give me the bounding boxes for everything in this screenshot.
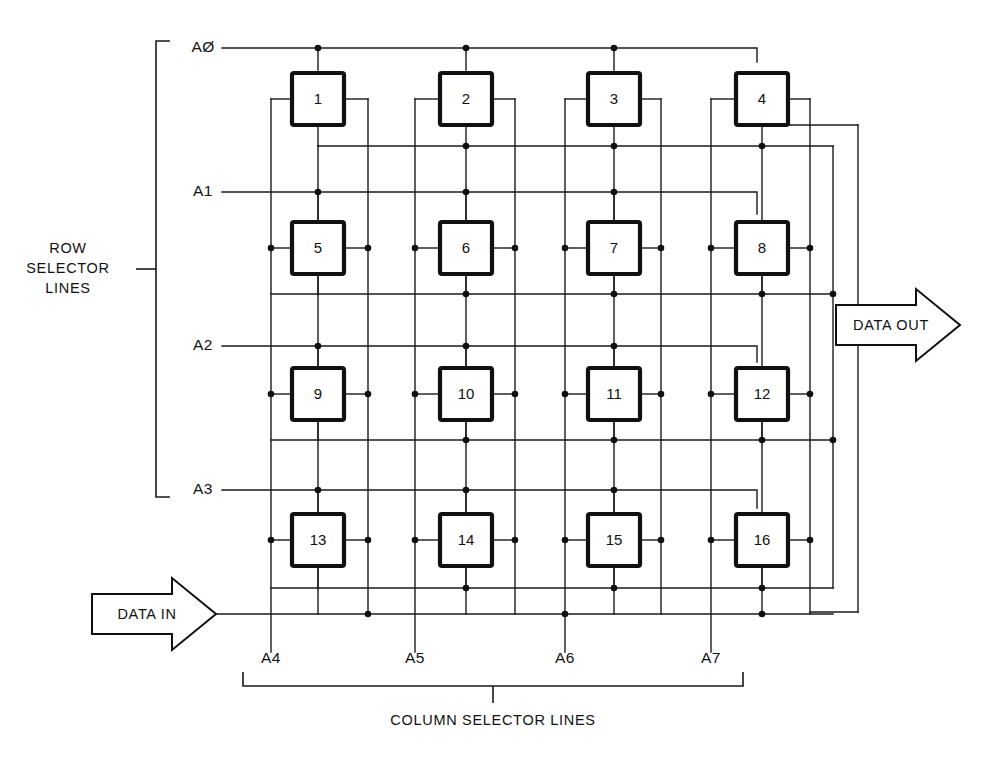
- column-address-labels: A4 A5 A6 A7: [261, 649, 721, 666]
- memory-cell-9-label: 9: [314, 385, 322, 402]
- row-selector-caption-line2: SELECTOR: [26, 260, 110, 276]
- data-in-port[interactable]: DATA IN: [92, 578, 216, 650]
- junction-c14-right: [512, 537, 519, 544]
- junction-c5-left: [268, 245, 275, 252]
- junction-a0-c3: [611, 45, 618, 52]
- junction-c9-right: [365, 391, 372, 398]
- junction-c7-left: [562, 245, 569, 252]
- junction-out0-c3: [611, 143, 618, 150]
- column-address-label-a6: A6: [555, 649, 575, 666]
- column-address-label-a4: A4: [261, 649, 281, 666]
- junction-din-c4: [759, 611, 766, 618]
- column-selector-caption: COLUMN SELECTOR LINES: [390, 712, 595, 728]
- memory-cell-10-label: 10: [458, 385, 475, 402]
- column-address-label-a7: A7: [701, 649, 721, 666]
- memory-cell-1-label: 1: [314, 90, 322, 107]
- memory-cell-13-label: 13: [310, 531, 327, 548]
- junction-a2-c1: [315, 343, 322, 350]
- row-address-label-a0: AØ: [191, 38, 214, 55]
- memory-cell-16-label: 16: [754, 531, 771, 548]
- data-out-port[interactable]: DATA OUT: [836, 289, 960, 361]
- data-in-label: DATA IN: [117, 606, 176, 622]
- row-selector-caption: ROW SELECTOR LINES: [26, 240, 110, 296]
- junction-a3-c3: [611, 487, 618, 494]
- junction-c16-right: [807, 537, 814, 544]
- memory-cell-8-label: 8: [758, 239, 766, 256]
- row-address-label-a1: A1: [193, 182, 213, 199]
- matrix-row-1: 5 6 7 8: [271, 222, 810, 294]
- row-wire-a0: [222, 48, 757, 62]
- junction-out1-c2: [463, 291, 470, 298]
- matrix-row-3: 13 14 15 16: [271, 514, 810, 588]
- memory-cell-4-label: 4: [758, 90, 766, 107]
- junction-a3-c1: [315, 487, 322, 494]
- matrix-row-0: 1 2 3 4: [271, 73, 810, 146]
- memory-cell-7-label: 7: [610, 239, 618, 256]
- junction-c13-left: [268, 537, 275, 544]
- junction-a1-c3: [611, 189, 618, 196]
- junction-a1-c2: [463, 189, 470, 196]
- memory-cell-12-label: 12: [754, 385, 771, 402]
- column-selector-lines: [271, 99, 810, 652]
- junction-c15-right: [658, 537, 665, 544]
- column-address-label-a5: A5: [405, 649, 425, 666]
- junction-c11-left: [562, 391, 569, 398]
- row-selector-caption-line3: LINES: [45, 280, 90, 296]
- junction-a2-c3: [611, 343, 618, 350]
- junction-out0-c4: [759, 143, 766, 150]
- junction-c7-right: [658, 245, 665, 252]
- data-out-label: DATA OUT: [853, 317, 929, 333]
- row-wire-a3: [222, 490, 757, 508]
- junction-c12-left: [708, 391, 715, 398]
- junction-c5-right: [365, 245, 372, 252]
- junction-out2-c2: [463, 437, 470, 444]
- junction-a1-c1: [315, 189, 322, 196]
- schematic-canvas: ROW SELECTOR LINES AØ A1 A2 A3: [0, 0, 998, 771]
- junction-c14-left: [412, 537, 419, 544]
- matrix-row-2: 9 10 11 12: [271, 368, 810, 440]
- row-address-label-a2: A2: [193, 336, 213, 353]
- row-selector-bracket: [136, 41, 170, 497]
- junction-out3-c3: [611, 585, 618, 592]
- junction-out0-c2: [463, 143, 470, 150]
- junction-a2-c2: [463, 343, 470, 350]
- junction-c8-left: [708, 245, 715, 252]
- junction-a0-c2: [463, 45, 470, 52]
- junction-c10-right: [512, 391, 519, 398]
- junction-c8-right: [807, 245, 814, 252]
- memory-cell-6-label: 6: [462, 239, 470, 256]
- row-wire-a1: [222, 192, 757, 214]
- junction-out1-bus: [830, 291, 837, 298]
- junction-a3-c2: [463, 487, 470, 494]
- junction-c15-left: [562, 537, 569, 544]
- row-address-label-a3: A3: [193, 480, 213, 497]
- junction-out3-c2: [463, 585, 470, 592]
- memory-matrix-diagram: ROW SELECTOR LINES AØ A1 A2 A3: [0, 0, 998, 771]
- junction-din-c2: [365, 611, 372, 618]
- junction-c16-left: [708, 537, 715, 544]
- row-address-labels: AØ A1 A2 A3: [191, 38, 214, 497]
- junction-c11-right: [658, 391, 665, 398]
- junction-out2-bus: [830, 437, 837, 444]
- junction-din-c3: [562, 611, 569, 618]
- memory-cell-3-label: 3: [610, 90, 618, 107]
- junction-out2-c3: [611, 437, 618, 444]
- junction-c10-left: [412, 391, 419, 398]
- junction-out1-c3: [611, 291, 618, 298]
- junction-a0-c1: [315, 45, 322, 52]
- memory-cell-2-label: 2: [462, 90, 470, 107]
- junction-out1-c4: [759, 291, 766, 298]
- junction-c12-right: [807, 391, 814, 398]
- row-selector-caption-line1: ROW: [49, 240, 87, 256]
- junction-c13-right: [365, 537, 372, 544]
- junction-c9-left: [268, 391, 275, 398]
- junction-c6-left: [412, 245, 419, 252]
- column-selector-bracket: [243, 672, 743, 703]
- memory-cell-5-label: 5: [314, 239, 322, 256]
- memory-cell-11-label: 11: [606, 385, 622, 402]
- junction-c6-right: [512, 245, 519, 252]
- junction-out3-c4: [759, 585, 766, 592]
- row-wire-a2: [222, 346, 757, 362]
- junction-out2-c4: [759, 437, 766, 444]
- memory-cell-15-label: 15: [606, 531, 623, 548]
